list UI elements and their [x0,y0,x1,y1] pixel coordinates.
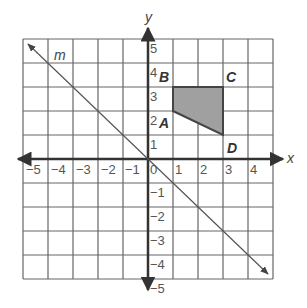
y-tick: −5 [150,281,165,296]
y-tick: 3 [150,89,157,104]
y-tick: 2 [150,113,157,128]
y-tick: 1 [150,137,157,152]
x-tick: 2 [200,162,207,177]
x-tick: 4 [250,162,257,177]
vertex-label-b: B [159,69,169,85]
x-tick: 1 [175,162,182,177]
line-m-label: m [54,47,66,63]
coordinate-plane: y x m −5 −4 −3 −2 −1 0 1 2 3 4 5 4 3 2 1… [0,0,307,308]
x-tick: −5 [26,162,41,177]
y-tick: −2 [150,209,165,224]
vertex-label-c: C [226,69,237,85]
x-tick: 3 [225,162,232,177]
x-tick: −2 [101,162,116,177]
y-tick: 4 [150,65,157,80]
x-tick: −3 [76,162,91,177]
vertex-label-d: D [227,140,237,156]
y-axis-label: y [144,9,153,25]
x-tick: −4 [51,162,66,177]
y-tick: −3 [150,233,165,248]
x-tick: −1 [125,162,140,177]
y-tick: 5 [150,41,157,56]
vertex-label-a: A [158,115,169,131]
x-tick-origin: 0 [150,162,157,177]
y-tick: −4 [150,257,165,272]
y-tick: −1 [150,185,165,200]
x-axis-label: x [286,150,295,166]
